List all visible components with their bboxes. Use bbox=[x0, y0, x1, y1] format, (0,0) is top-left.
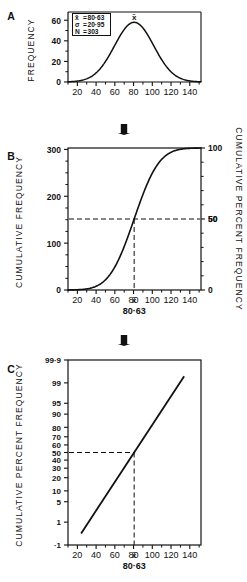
panel-b-y-right-label: 0 bbox=[208, 285, 213, 295]
panel-c-y-label: 60 bbox=[52, 441, 61, 450]
panel-b-y-left-label: 0 bbox=[56, 285, 61, 295]
panel-a-y-axis-title: FREQUENCY bbox=[26, 18, 36, 81]
panel-a-x-label: 100 bbox=[145, 87, 160, 97]
panel-a-x-label: 140 bbox=[182, 87, 197, 97]
panel-c-x-label: 20 bbox=[72, 550, 82, 560]
panel-b-x-label: 20 bbox=[72, 295, 82, 305]
panel-a-x-label: 60 bbox=[110, 87, 120, 97]
panel-b-mean-label: 80·63 bbox=[123, 306, 146, 316]
panel-c-y-label: 1 bbox=[57, 518, 62, 527]
panel-c-y-label: 5 bbox=[57, 498, 62, 507]
panel-a-y-axis-title-text: FREQUENCY bbox=[26, 18, 36, 81]
panel-c-y-label: 99 bbox=[52, 379, 61, 388]
figure-panel-stack: 020406020406080100120140x̄x̄=80·63σ=20·9… bbox=[0, 0, 247, 582]
panel-c-y-label: 80 bbox=[52, 424, 61, 433]
panel-b-y-right-axis-title-text: CUMULATIVE PERCENT FREQUENCY bbox=[234, 127, 244, 311]
panel-b-x-label: 60 bbox=[110, 295, 120, 305]
panel-a-y-label: 60 bbox=[52, 16, 62, 26]
panel-c-y-label: 95 bbox=[52, 399, 61, 408]
panel-b-y-left-axis-title: CUMULATIVE FREQUENCY bbox=[14, 156, 24, 288]
panel-a-x-label: 120 bbox=[164, 87, 179, 97]
panel-c-y-label: 30 bbox=[52, 464, 61, 473]
panel-c-x-label: 40 bbox=[91, 550, 101, 560]
panel-b-y-right-label: 100 bbox=[208, 143, 222, 153]
panel-b-x-label: 100 bbox=[145, 295, 160, 305]
panel-a-y-label: 0 bbox=[56, 77, 61, 87]
panel-b-y-left-axis-title-text: CUMULATIVE FREQUENCY bbox=[14, 156, 24, 288]
figure-canvas: 020406020406080100120140x̄x̄=80·63σ=20·9… bbox=[0, 0, 247, 582]
panel-b-x-label: 120 bbox=[164, 295, 179, 305]
panel-c-y-label: 20 bbox=[52, 474, 61, 483]
panel-c-y-label: 10 bbox=[52, 487, 61, 496]
panel-c-mean-label: 80·63 bbox=[123, 561, 146, 571]
panel-c-y-label: 70 bbox=[52, 433, 61, 442]
panel-b-y-left-label: 300 bbox=[47, 145, 61, 155]
panel-b-y-left-label: 200 bbox=[47, 192, 61, 202]
panel-a-x-label: 20 bbox=[72, 87, 82, 97]
panel-a-y-label: 40 bbox=[52, 36, 62, 46]
panel-c-x-label: 120 bbox=[164, 550, 179, 560]
panel-c-x-label: 100 bbox=[145, 550, 160, 560]
panel-b-y-left-label: 100 bbox=[47, 239, 61, 249]
panel-c-y-label: 99·9 bbox=[45, 356, 62, 365]
panel-a-mean-marker: x̄ bbox=[132, 13, 137, 22]
panel-c-x-label: 60 bbox=[110, 550, 120, 560]
panel-a-letter: A bbox=[7, 10, 15, 22]
panel-a-stat-symbol: N bbox=[75, 28, 80, 35]
panel-a-x-label: 80 bbox=[129, 87, 139, 97]
panel-b-y-right-axis-title: CUMULATIVE PERCENT FREQUENCY bbox=[234, 127, 244, 311]
panel-c-x-label: 140 bbox=[182, 550, 197, 560]
panel-a-stat-equals: = bbox=[83, 28, 87, 35]
panel-c-y-label: 90 bbox=[52, 410, 61, 419]
panel-a-x-label: 40 bbox=[91, 87, 101, 97]
panel-b-guide-value: 50 bbox=[208, 214, 218, 224]
panel-c-y-axis-title-text: CUMULATIVE PERCENT FREQUENCY bbox=[14, 363, 24, 547]
panel-b-x-label: 140 bbox=[182, 295, 197, 305]
panel-c-y-axis-title: CUMULATIVE PERCENT FREQUENCY bbox=[14, 363, 24, 547]
panel-b-x-label: 40 bbox=[91, 295, 101, 305]
panel-a-stat-value: 303 bbox=[88, 28, 99, 35]
panel-a-y-label: 20 bbox=[52, 57, 62, 67]
panel-c-y-label: ·1 bbox=[54, 541, 62, 550]
